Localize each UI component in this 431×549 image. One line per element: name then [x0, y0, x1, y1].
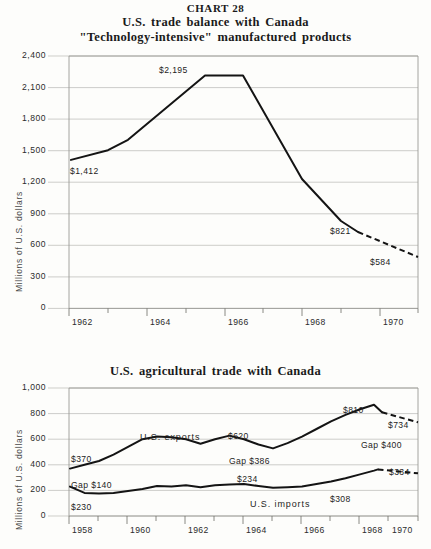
- top-label-1412: $1,412: [70, 166, 99, 176]
- bottom-chart-exports-line: [70, 405, 382, 469]
- bot-label-230: $230: [71, 502, 92, 512]
- top-ytick-300: 300: [6, 271, 46, 281]
- bot-label-370: $370: [71, 454, 92, 464]
- bot-ytick-400: 400: [6, 459, 46, 469]
- bot-xtick-1966: 1966: [304, 525, 325, 535]
- top-ytick-1500: 1,500: [6, 145, 46, 155]
- bot-label-gap-140: Gap $140: [71, 480, 112, 490]
- bot-label-gap-400: Gap $400: [361, 440, 402, 450]
- top-ytick-900: 900: [6, 208, 46, 218]
- bot-xtick-1964: 1964: [246, 525, 267, 535]
- bot-series-label-exports: U.S. exports: [140, 432, 200, 442]
- top-chart-x-ticks: [69, 308, 418, 316]
- bot-label-734: $734: [388, 420, 409, 430]
- bot-xtick-1970: 1970: [392, 525, 413, 535]
- bot-label-234: $234: [237, 474, 258, 484]
- bot-label-810: $810: [343, 405, 364, 415]
- top-ytick-0: 0: [6, 302, 46, 312]
- bot-ytick-1000: 1,000: [6, 382, 46, 392]
- bot-xtick-1962: 1962: [188, 525, 209, 535]
- top-chart-gridlines: [48, 56, 418, 308]
- chart-canvas: [0, 0, 431, 549]
- top-xtick-1966: 1966: [228, 317, 249, 327]
- top-chart-balance-line: [71, 76, 358, 233]
- bot-xtick-1958: 1958: [72, 525, 93, 535]
- chart-page: CHART 28 U.S. trade balance with Canada …: [0, 0, 431, 549]
- top-ytick-2400: 2,400: [6, 50, 46, 60]
- bottom-chart-imports-line: [70, 469, 378, 493]
- bot-xtick-1968: 1968: [362, 525, 383, 535]
- bottom-chart-x-ticks: [69, 516, 418, 524]
- top-chart-balance-projected-line: [358, 232, 418, 257]
- bot-xtick-1960: 1960: [130, 525, 151, 535]
- bot-ytick-800: 800: [6, 408, 46, 418]
- bot-label-308: $308: [330, 494, 351, 504]
- top-xtick-1970: 1970: [383, 317, 404, 327]
- top-ytick-1200: 1,200: [6, 176, 46, 186]
- top-xtick-1964: 1964: [150, 317, 171, 327]
- bot-series-label-imports: U.S. imports: [250, 499, 310, 509]
- bot-ytick-600: 600: [6, 433, 46, 443]
- top-label-584: $584: [370, 257, 391, 267]
- top-ytick-1800: 1,800: [6, 113, 46, 123]
- top-xtick-1968: 1968: [305, 317, 326, 327]
- top-ytick-600: 600: [6, 239, 46, 249]
- top-label-2195: $2,195: [159, 65, 188, 75]
- bot-label-334: $334: [389, 467, 410, 477]
- bot-label-gap-386: Gap $386: [229, 456, 270, 466]
- top-ytick-2100: 2,100: [6, 82, 46, 92]
- top-label-821: $821: [330, 226, 351, 236]
- bot-ytick-200: 200: [6, 484, 46, 494]
- bot-label-620: $620: [228, 431, 249, 441]
- bot-ytick-0: 0: [6, 510, 46, 520]
- top-xtick-1962: 1962: [72, 317, 93, 327]
